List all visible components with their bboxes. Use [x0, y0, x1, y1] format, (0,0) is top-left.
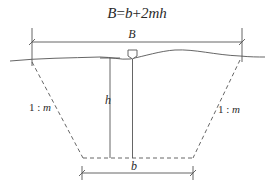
top-width-label: B — [128, 27, 136, 41]
bottom-width-dimension — [79, 166, 196, 180]
right-slope-ratio: 1 : m — [218, 103, 240, 115]
ground-surface-line — [10, 50, 265, 61]
gauge-marker — [128, 50, 137, 158]
bottom-width-label: b — [131, 159, 137, 173]
channel-cross-section-diagram: B=b+2mh B h 1 : m 1 : m b — [0, 0, 275, 193]
formula-title: B=b+2mh — [107, 5, 166, 21]
left-slope-ratio: 1 : m — [29, 101, 51, 113]
depth-indicator — [100, 58, 120, 158]
top-width-dimension — [29, 28, 245, 66]
depth-label: h — [105, 93, 111, 107]
channel-outline — [32, 60, 240, 158]
